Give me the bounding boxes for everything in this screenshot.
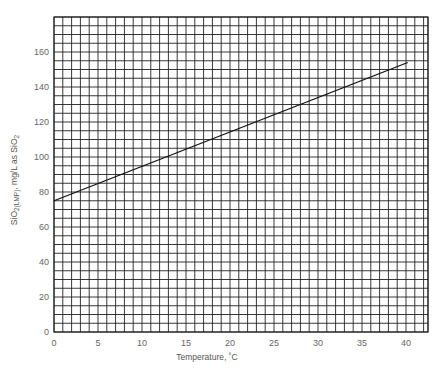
y-tick-label: 80: [39, 187, 49, 197]
y-axis-label: SiO2(LMP), mg/L as SiO2: [9, 134, 21, 225]
y-axis-ticks: 020406080100120140160: [34, 47, 49, 337]
x-tick-label: 35: [357, 338, 367, 348]
y-tick-label: 40: [39, 257, 49, 267]
x-tick-label: 40: [401, 338, 411, 348]
y-tick-label: 60: [39, 222, 49, 232]
x-tick-label: 25: [269, 338, 279, 348]
x-tick-label: 0: [51, 338, 56, 348]
y-label-main: SiO: [9, 211, 19, 226]
x-axis-ticks: 0510152025303540: [51, 338, 411, 348]
grid-lines: [54, 17, 428, 332]
y-tick-label: 120: [34, 117, 49, 127]
x-axis-label: Temperature, ˚C: [176, 352, 237, 362]
x-tick-label: 5: [95, 338, 100, 348]
x-tick-label: 20: [225, 338, 235, 348]
y-label-sub: 2(LMP): [13, 190, 21, 211]
x-tick-label: 30: [313, 338, 323, 348]
y-tick-label: 0: [44, 327, 49, 337]
y-tick-label: 140: [34, 82, 49, 92]
x-tick-label: 15: [181, 338, 191, 348]
y-label-sub2: 2: [13, 134, 20, 138]
y-tick-label: 100: [34, 152, 49, 162]
x-tick-label: 10: [137, 338, 147, 348]
y-tick-label: 20: [39, 292, 49, 302]
y-label-mid: , mg/L as SiO: [9, 138, 19, 190]
y-tick-label: 160: [34, 47, 49, 57]
chart: 0510152025303540 020406080100120140160 T…: [0, 0, 443, 379]
